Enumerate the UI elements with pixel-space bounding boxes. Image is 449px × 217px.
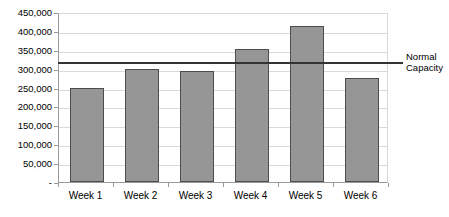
bar: [70, 88, 104, 182]
x-axis-tick-label: Week 5: [278, 190, 333, 201]
gridline: [59, 146, 387, 147]
y-axis-tick-label: -: [0, 178, 52, 188]
y-axis-tick-label: 400,000: [0, 27, 52, 37]
x-axis-tick-label: Week 2: [113, 190, 168, 201]
normal-capacity-label: Normal Capacity: [406, 51, 443, 73]
bar-chart: -50,000100,000150,000200,000250,000300,0…: [0, 0, 449, 217]
plot-area: [58, 13, 388, 183]
bar: [125, 69, 159, 182]
x-axis-tickmark: [388, 183, 389, 187]
gridline: [59, 90, 387, 91]
x-axis-tick-label: Week 6: [333, 190, 388, 201]
bar: [235, 49, 269, 182]
normal-capacity-label-line2: Capacity: [406, 62, 443, 73]
x-axis-tickmark: [223, 183, 224, 187]
gridline: [59, 71, 387, 72]
y-axis-tick-label: 250,000: [0, 84, 52, 94]
gridline: [59, 165, 387, 166]
bar: [345, 78, 379, 182]
bar: [290, 26, 324, 182]
x-axis-tickmark: [113, 183, 114, 187]
x-axis-tickmark: [168, 183, 169, 187]
x-axis-labels: Week 1Week 2Week 3Week 4Week 5Week 6: [58, 190, 388, 210]
x-axis-tick-label: Week 3: [168, 190, 223, 201]
x-axis-tickmark: [58, 183, 59, 187]
y-axis-tick-label: 50,000: [0, 159, 52, 169]
gridline: [59, 108, 387, 109]
bar: [180, 71, 214, 182]
x-axis-tick-label: Week 1: [58, 190, 113, 201]
y-axis-tick-label: 150,000: [0, 121, 52, 131]
x-axis-tickmark: [333, 183, 334, 187]
normal-capacity-label-line1: Normal: [406, 51, 443, 62]
y-axis-tick-label: 200,000: [0, 102, 52, 112]
gridline: [59, 127, 387, 128]
y-axis-tick-label: 300,000: [0, 65, 52, 75]
y-axis-labels: -50,000100,000150,000200,000250,000300,0…: [0, 0, 52, 217]
x-axis-tick-label: Week 4: [223, 190, 278, 201]
x-axis-tickmark: [278, 183, 279, 187]
y-axis-tick-label: 350,000: [0, 46, 52, 56]
y-axis-tick-label: 450,000: [0, 8, 52, 18]
gridline: [59, 33, 387, 34]
y-axis-tick-label: 100,000: [0, 140, 52, 150]
gridline: [59, 52, 387, 53]
normal-capacity-line: [58, 62, 403, 64]
